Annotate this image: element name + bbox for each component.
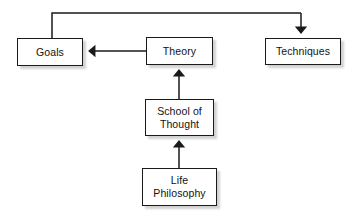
node-life-philosophy: Life Philosophy — [142, 168, 217, 206]
connector-theory-to-goals-top — [52, 13, 301, 38]
node-life-philosophy-label: Life Philosophy — [151, 174, 207, 200]
node-techniques: Techniques — [265, 38, 341, 65]
node-goals: Goals — [17, 38, 83, 66]
node-theory: Theory — [146, 37, 213, 65]
flowchart-diagram: Goals Theory Techniques School of Though… — [0, 0, 354, 220]
node-theory-label: Theory — [161, 45, 198, 58]
node-goals-label: Goals — [34, 46, 66, 59]
node-school-of-thought: School of Thought — [145, 99, 214, 136]
node-school-of-thought-label: School of Thought — [155, 105, 204, 131]
node-techniques-label: Techniques — [274, 45, 332, 58]
